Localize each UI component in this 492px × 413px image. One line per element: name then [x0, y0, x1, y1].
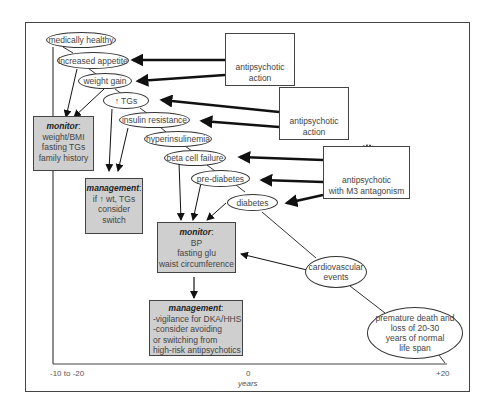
drug-box-2-line-2: action — [280, 127, 348, 138]
management-1-line: consider — [86, 204, 142, 215]
node-weight-gain: weight gain — [78, 73, 132, 89]
drug-box-antipsychotic-2: antipsychotic action — [279, 87, 349, 140]
node-cv-line-2: events — [323, 272, 348, 282]
colon: : — [78, 121, 80, 131]
axis-label-left: -10 to -20 — [50, 369, 84, 378]
drug-box-1-line-2: action — [226, 73, 294, 84]
monitor-2-title: monitor — [179, 227, 211, 237]
up-arrow-icon: ↑ — [115, 96, 119, 106]
monitor-box-2: monitor: BP fasting glu waist circumfere… — [157, 222, 236, 273]
node-medically-healthy: medically healthy — [46, 32, 116, 48]
drug-box-2-line-1: antipsychotic — [280, 116, 348, 127]
node-pd-line-2: loss of 20-30 — [391, 323, 440, 333]
axis-label-years: years — [238, 379, 258, 388]
node-increased-appetite: increased appetite — [57, 52, 129, 69]
node-diabetes: diabetes — [227, 194, 278, 211]
management-2-line: high-risk antipsychotics — [150, 345, 242, 356]
node-pd-line-1: premature death and — [376, 313, 455, 323]
node-insulin-resistance: insulin resistance — [119, 112, 190, 128]
monitor-1-title: monitor — [46, 121, 78, 131]
management-1-line: if ↑ wt, TGs — [86, 194, 142, 205]
colon: : — [139, 183, 141, 193]
node-tgs-label: TGs — [121, 96, 137, 106]
colon: : — [211, 227, 213, 237]
drug-box-antipsychotic-1: antipsychotic action — [225, 33, 295, 86]
management-1-title: management — [87, 183, 139, 193]
monitor-1-line: fasting TGs — [34, 142, 93, 153]
monitor-2-line: fasting glu — [158, 248, 235, 259]
drug-box-3-line-1: antipsychotic — [324, 175, 409, 186]
monitor-box-1: monitor: weight/BMI fasting TGs family h… — [33, 116, 94, 171]
node-beta-cell-failure: beta cell failure — [164, 150, 226, 166]
management-box-1: management: if ↑ wt, TGs consider switch — [85, 178, 143, 234]
management-2-line: or switching from — [150, 335, 242, 346]
node-premature-death: premature death and loss of 20-30 years … — [367, 307, 463, 359]
management-2-line: -vigilance for DKA/HHS — [150, 314, 242, 325]
node-cv-line-1: cardiovascular — [309, 262, 364, 272]
node-pd-line-3: years of normal — [386, 333, 445, 343]
management-1-line: switch — [86, 215, 142, 226]
node-hyperinsulinemia: hyperinsulinemia — [144, 131, 212, 147]
colon: : — [221, 303, 223, 313]
drug-box-antipsychotic-m3: antipsychotic with M3 antagonism — [323, 146, 410, 199]
monitor-2-line: BP — [158, 238, 235, 249]
node-pd-line-4: life span — [399, 343, 431, 353]
axis-label-center: 0 — [246, 369, 250, 378]
monitor-1-line: family history — [34, 153, 93, 164]
node-pre-diabetes: pre-diabetes — [191, 170, 250, 187]
management-2-line: -consider avoiding — [150, 324, 242, 335]
node-tgs: ↑ TGs — [103, 92, 149, 109]
management-box-2: management: -vigilance for DKA/HHS -cons… — [149, 300, 243, 356]
node-cardiovascular-events: cardiovascular events — [305, 256, 367, 288]
management-2-title: management — [169, 303, 221, 313]
monitor-1-line: weight/BMI — [34, 132, 93, 143]
drug-box-3-line-2: with M3 antagonism — [324, 186, 409, 197]
drug-box-1-line-1: antipsychotic — [226, 62, 294, 73]
axis-label-right: +20 — [436, 369, 450, 378]
monitor-2-line: waist circumference — [158, 259, 235, 270]
